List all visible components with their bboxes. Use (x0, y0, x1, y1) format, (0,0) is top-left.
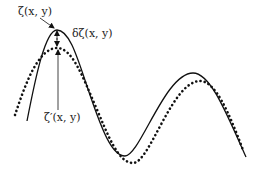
zeta-pointer-arrow (40, 18, 54, 28)
diagram-canvas (0, 0, 257, 171)
zeta-label: ζ(x, y) (18, 6, 52, 17)
zeta-prime-label: ζ′(x, y) (44, 112, 80, 123)
zeta-prime-curve (15, 48, 243, 163)
delta-zeta-label: δζ(x, y) (72, 28, 113, 39)
